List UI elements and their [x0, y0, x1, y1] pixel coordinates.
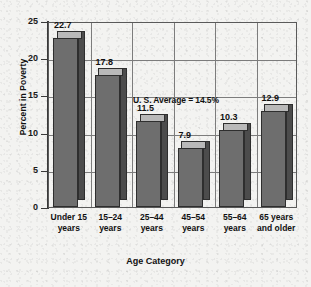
plot-area	[48, 22, 297, 208]
bar[interactable]	[136, 121, 161, 207]
horizontal-gridline	[49, 60, 296, 61]
y-tick-mark	[41, 96, 48, 97]
bar-front-face	[178, 148, 203, 207]
vertical-gridline	[132, 23, 133, 207]
bar-side-face	[203, 141, 210, 200]
bar-side-face	[78, 31, 85, 200]
bar-front-face	[95, 75, 120, 207]
y-tick-mark	[41, 134, 48, 135]
bar-side-face	[161, 114, 168, 200]
bar-value-label: 12.9	[262, 94, 280, 103]
y-tick-label: 15	[8, 91, 38, 100]
bar[interactable]	[178, 148, 203, 207]
bar-front-face	[261, 111, 286, 207]
vertical-gridline	[91, 23, 92, 207]
us-average-annotation: U. S. Average = 14.5%	[133, 95, 219, 105]
x-axis-title: Age Category	[0, 256, 311, 266]
bar-front-face	[53, 38, 78, 207]
bar-side-face	[244, 123, 251, 200]
bar[interactable]	[219, 130, 244, 207]
y-tick-label: 10	[8, 129, 38, 138]
bar-value-label: 10.3	[220, 113, 238, 122]
y-tick-mark	[41, 22, 48, 23]
bar-side-face	[286, 104, 293, 200]
horizontal-gridline	[49, 172, 296, 173]
vertical-gridline	[174, 23, 175, 207]
y-tick-label: 5	[8, 166, 38, 175]
bar-side-face	[120, 68, 127, 200]
chart-figure: Percent in Poverty 0510152025 22.717.811…	[0, 0, 311, 287]
bar-front-face	[219, 130, 244, 207]
bar-value-label: 22.7	[54, 21, 72, 30]
horizontal-gridline	[49, 135, 296, 136]
bar-value-label: 11.5	[137, 104, 154, 113]
y-tick-mark	[41, 59, 48, 60]
vertical-gridline	[257, 23, 258, 207]
bar[interactable]	[261, 111, 286, 207]
y-tick-label: 0	[8, 203, 38, 212]
bar-value-label: 7.9	[179, 131, 192, 140]
y-tick-label: 20	[8, 54, 38, 63]
x-category-label: 65 years and older	[252, 212, 302, 234]
bar[interactable]	[95, 75, 120, 207]
bar[interactable]	[53, 38, 78, 207]
y-tick-mark	[41, 208, 48, 209]
y-tick-mark	[41, 171, 48, 172]
bar-front-face	[136, 121, 161, 207]
vertical-gridline	[215, 23, 216, 207]
y-tick-label: 25	[8, 17, 38, 26]
bar-value-label: 17.8	[96, 58, 114, 67]
